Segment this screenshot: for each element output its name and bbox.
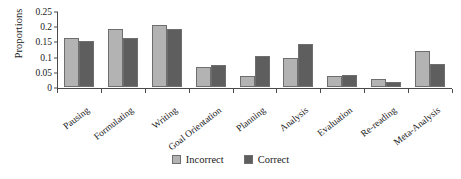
y-tick-label: 0.1 bbox=[12, 53, 57, 63]
bar-incorrect bbox=[196, 67, 211, 87]
y-tick-mark bbox=[54, 27, 58, 28]
chart-legend: IncorrectCorrect bbox=[0, 154, 461, 165]
y-tick-mark bbox=[54, 57, 58, 58]
legend-swatch-icon bbox=[172, 155, 181, 164]
plot-area: 00.050.10.150.20.25 PausingFormulatingWr… bbox=[57, 12, 452, 88]
y-tick-mark bbox=[54, 72, 58, 73]
bar-correct bbox=[386, 82, 401, 87]
bar-group bbox=[196, 11, 226, 87]
x-tick-mark bbox=[57, 89, 58, 93]
legend-label: Incorrect bbox=[186, 154, 224, 165]
bar-group bbox=[327, 11, 357, 87]
legend-entry-incorrect[interactable]: Incorrect bbox=[172, 154, 224, 165]
legend-entry-correct[interactable]: Correct bbox=[244, 154, 290, 165]
bar-correct bbox=[342, 75, 357, 87]
bar-correct bbox=[167, 29, 182, 87]
legend-label: Correct bbox=[258, 154, 290, 165]
bar-correct bbox=[123, 38, 138, 87]
y-tick-label: 0 bbox=[12, 83, 57, 93]
bar-correct bbox=[430, 64, 445, 87]
legend-swatch-icon bbox=[244, 155, 253, 164]
bar-group bbox=[283, 11, 313, 87]
bar-group bbox=[64, 11, 94, 87]
bar-incorrect bbox=[283, 58, 298, 87]
bar-correct bbox=[79, 41, 94, 87]
bar-chart-figure: Proportions 00.050.10.150.20.25 PausingF… bbox=[0, 0, 461, 179]
bar-group bbox=[108, 11, 138, 87]
y-tick-mark bbox=[54, 12, 58, 13]
bar-correct bbox=[298, 44, 313, 87]
bar-incorrect bbox=[64, 38, 79, 87]
bar-correct bbox=[211, 65, 226, 87]
x-category-label: Writing bbox=[173, 87, 202, 113]
y-tick-label: 0.25 bbox=[12, 7, 57, 17]
bar-group bbox=[415, 11, 445, 87]
bar-group bbox=[152, 11, 182, 87]
y-tick-mark bbox=[54, 42, 58, 43]
bar-incorrect bbox=[108, 29, 123, 87]
y-tick-label: 0.2 bbox=[12, 22, 57, 32]
y-tick-label: 0.05 bbox=[12, 68, 57, 78]
y-axis-line bbox=[57, 12, 58, 89]
y-tick-label: 0.15 bbox=[12, 37, 57, 47]
bar-group bbox=[371, 11, 401, 87]
